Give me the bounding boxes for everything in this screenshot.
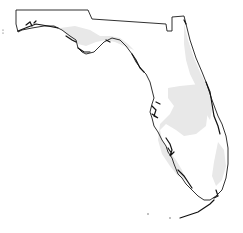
- dot-mark: [2, 29, 3, 30]
- pensacola-bay: [26, 21, 36, 26]
- florida-map: [0, 0, 243, 233]
- dot-mark: [147, 213, 148, 214]
- dot-mark: [169, 217, 170, 218]
- shaded-regions: [60, 24, 226, 186]
- central-shade: [158, 84, 208, 180]
- stray-marks: [2, 29, 170, 218]
- tampa-bay: [152, 102, 160, 118]
- dot-mark: [2, 32, 3, 33]
- florida-keys: [180, 200, 214, 218]
- southeast-shade: [212, 142, 226, 186]
- panhandle-shade: [60, 26, 134, 50]
